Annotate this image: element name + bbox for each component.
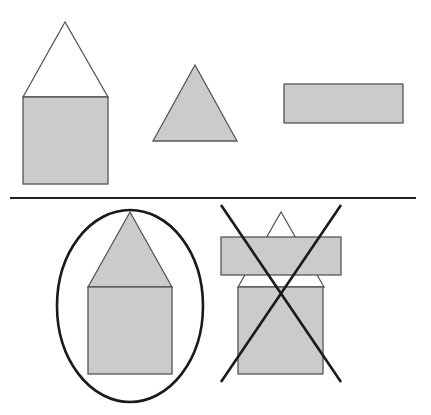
gray-rectangle <box>284 84 403 123</box>
top-row <box>23 22 403 184</box>
house-body-square <box>23 97 108 184</box>
circled-house-roof-triangle <box>88 212 172 287</box>
crossed-body-square <box>238 287 323 374</box>
circled-house-body-square <box>88 287 172 374</box>
crossed-composition <box>221 205 341 382</box>
bottom-row <box>57 205 341 402</box>
house-roof-triangle <box>23 22 108 97</box>
house-shape <box>23 22 108 184</box>
crossed-gray-rectangle <box>221 237 341 275</box>
circled-house <box>57 210 203 402</box>
diagram-canvas <box>0 0 431 415</box>
gray-triangle <box>153 65 237 141</box>
